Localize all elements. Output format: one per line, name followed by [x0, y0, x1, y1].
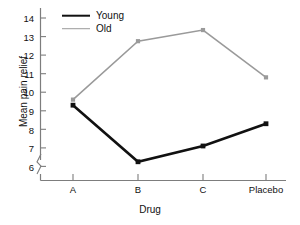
legend-label: Young: [96, 11, 124, 21]
data-point: [201, 28, 205, 32]
y-tick-marks: [41, 18, 47, 166]
series-markers-old: [71, 28, 268, 102]
series-line-old: [73, 30, 266, 100]
data-point: [136, 159, 141, 164]
chart-figure: Mean pain relief Drug 14 13 12 11 10 9 8…: [0, 0, 300, 225]
legend-swatch-young: [62, 11, 90, 20]
legend-label: Old: [96, 24, 112, 34]
data-point: [264, 121, 269, 126]
legend-swatch-old: [62, 24, 90, 33]
data-point: [201, 144, 206, 149]
data-point: [71, 103, 76, 108]
data-point: [71, 98, 75, 102]
data-point: [264, 75, 268, 79]
data-point: [136, 39, 140, 43]
series-line-young: [73, 105, 266, 162]
legend-item-young: Young: [62, 9, 124, 22]
x-tick-marks: [73, 174, 266, 181]
plot-area: [0, 0, 300, 225]
legend-item-old: Old: [62, 22, 124, 35]
legend: Young Old: [62, 9, 124, 35]
